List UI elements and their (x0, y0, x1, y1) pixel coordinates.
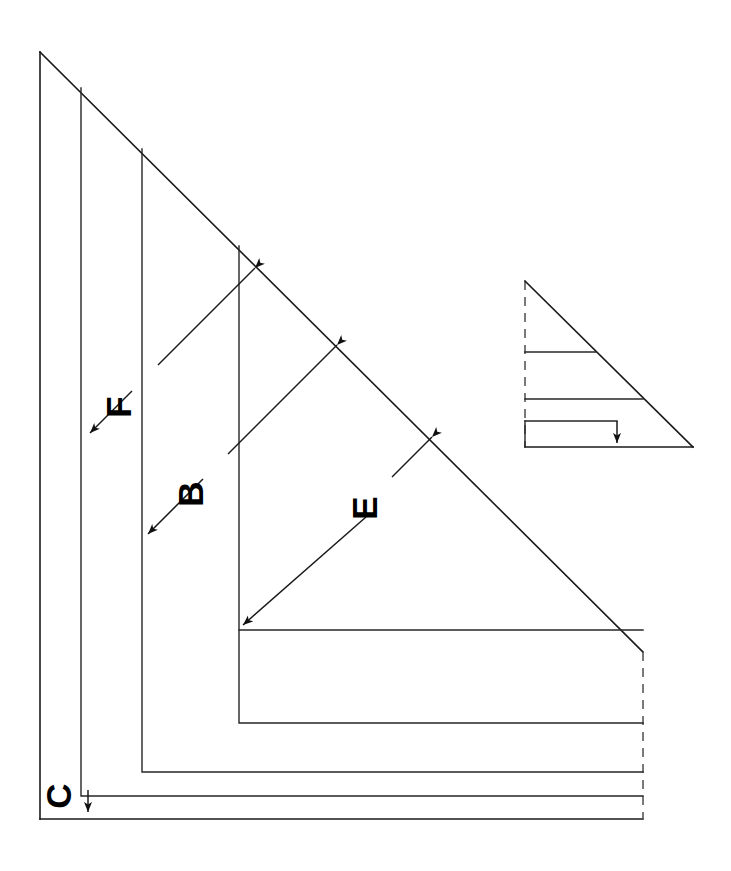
dimension-label-B: B (171, 481, 210, 506)
main-inner-profile-2 (142, 149, 643, 772)
dimension-line-F-upper (158, 268, 255, 365)
inset-hypotenuse (525, 281, 693, 447)
line-drawing-svg: F B E C (0, 0, 731, 871)
dimension-line-B-upper (228, 345, 337, 454)
main-inner-profile-3 (239, 246, 643, 723)
dimension-label-C: C (39, 783, 78, 808)
technical-drawing-canvas: F B E C (0, 0, 731, 871)
main-inner-profile-1 (81, 88, 643, 796)
dimension-label-E: E (345, 496, 384, 519)
dimension-label-F: F (99, 396, 138, 417)
dimension-line-E-upper (392, 437, 432, 477)
dimension-line-E-lower (243, 517, 366, 625)
